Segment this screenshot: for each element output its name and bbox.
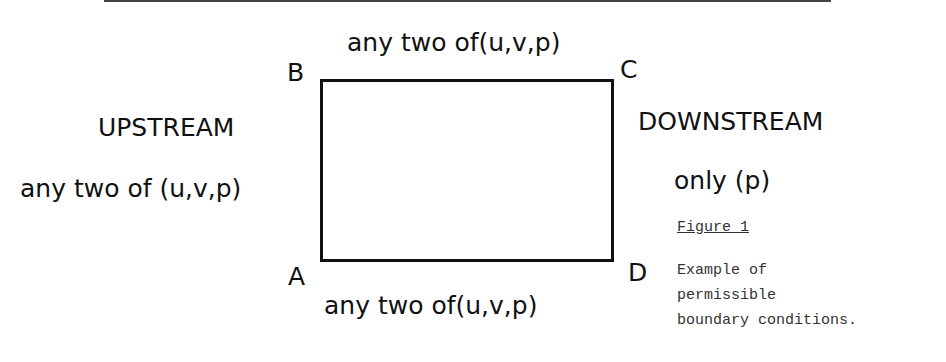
upstream-condition: any two of (u,v,p) [20,174,241,203]
top-rule [104,0,831,2]
top-boundary-label: any two of(u,v,p) [347,28,560,57]
bottom-boundary-label: any two of(u,v,p) [324,291,537,320]
caption-line: permissible [677,283,857,308]
upstream-title: UPSTREAM [98,113,234,142]
corner-b-label: B [287,58,304,87]
corner-d-label: D [628,258,647,287]
downstream-condition: only (p) [674,166,770,195]
caption-line: boundary conditions. [677,308,857,333]
corner-c-label: C [620,55,637,84]
downstream-title: DOWNSTREAM [638,107,823,136]
domain-rectangle [320,79,614,262]
figure-label: Figure 1 [677,219,749,236]
figure-caption: Example of permissible boundary conditio… [677,258,857,333]
corner-a-label: A [288,262,305,291]
caption-line: Example of [677,258,857,283]
